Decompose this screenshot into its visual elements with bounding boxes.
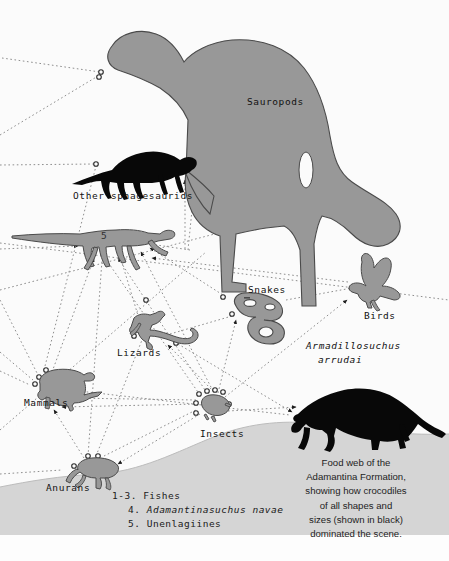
prey-marker: [99, 70, 104, 75]
label-unenlagiine-marker-5: 5: [101, 230, 107, 242]
caption-line: showing how crocodiles: [281, 484, 431, 498]
prey-marker: [33, 382, 38, 387]
prey-marker: [205, 389, 210, 394]
caption-line: Adamantina Formation,: [281, 470, 431, 484]
prey-marker: [97, 75, 102, 80]
prey-marker: [221, 390, 226, 395]
label-anurans: Anurans: [46, 482, 90, 494]
food-web-figure: Sauropods Other sphagesaurids 5 Snakes B…: [0, 0, 449, 561]
legend-name: Adamantinasuchus navae: [147, 504, 284, 515]
label-lizards: Lizards: [117, 347, 161, 359]
prey-marker: [72, 464, 77, 469]
label-other-sphagesaurids: Other sphagesaurids: [73, 190, 193, 202]
label-armadillosuchus-genus: Armadillosuchus: [306, 340, 426, 352]
prey-marker: [94, 162, 99, 167]
legend-row: 1-3. Fishes: [112, 489, 284, 503]
legend-key: 1-3. Fishes 4. Adamantinasuchus navae 5.…: [112, 489, 284, 530]
legend-number: 4.: [128, 504, 140, 515]
legend-name: Unenlagiines: [147, 518, 222, 529]
prey-marker: [194, 401, 199, 406]
legend-number: 1-3.: [112, 490, 137, 501]
prey-marker: [230, 312, 235, 317]
legend-row: 4. Adamantinasuchus navae: [112, 503, 284, 517]
label-armadillosuchus-species: arrudai: [318, 354, 362, 366]
prey-marker: [194, 411, 199, 416]
prey-marker: [221, 295, 226, 300]
caption-line: dominated the scene.: [281, 527, 431, 541]
prey-marker: [197, 392, 202, 397]
label-insects: Insects: [200, 428, 244, 440]
caption-line: sizes (shown in black): [281, 513, 431, 527]
prey-marker: [144, 298, 149, 303]
label-mammals: Mammals: [24, 397, 68, 409]
label-sauropods: Sauropods: [247, 96, 304, 108]
legend-name: Fishes: [143, 490, 180, 501]
legend-row: 5. Unenlagiines: [112, 517, 284, 531]
prey-marker: [213, 388, 218, 393]
prey-marker: [86, 454, 91, 459]
label-snakes: Snakes: [248, 284, 286, 296]
label-birds: Birds: [364, 310, 396, 322]
caption-line: of all shapes and: [281, 499, 431, 513]
caption-line: Food web of the: [281, 456, 431, 470]
legend-number: 5.: [128, 518, 140, 529]
figure-caption: Food web of the Adamantina Formation, sh…: [281, 456, 431, 541]
